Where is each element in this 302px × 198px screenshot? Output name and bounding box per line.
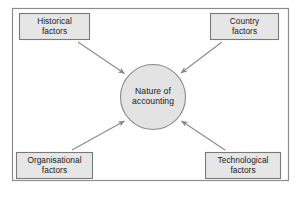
node-box-organisational[interactable]: [17, 153, 93, 179]
diagram-canvas: Historical factors Country factors Organ…: [0, 0, 302, 198]
hub-node-nature-of-accounting[interactable]: [121, 65, 186, 130]
node-box-technological[interactable]: [206, 153, 281, 179]
diagram-graphics: [0, 0, 302, 198]
node-box-historical[interactable]: [20, 14, 90, 40]
node-box-country[interactable]: [211, 14, 279, 40]
